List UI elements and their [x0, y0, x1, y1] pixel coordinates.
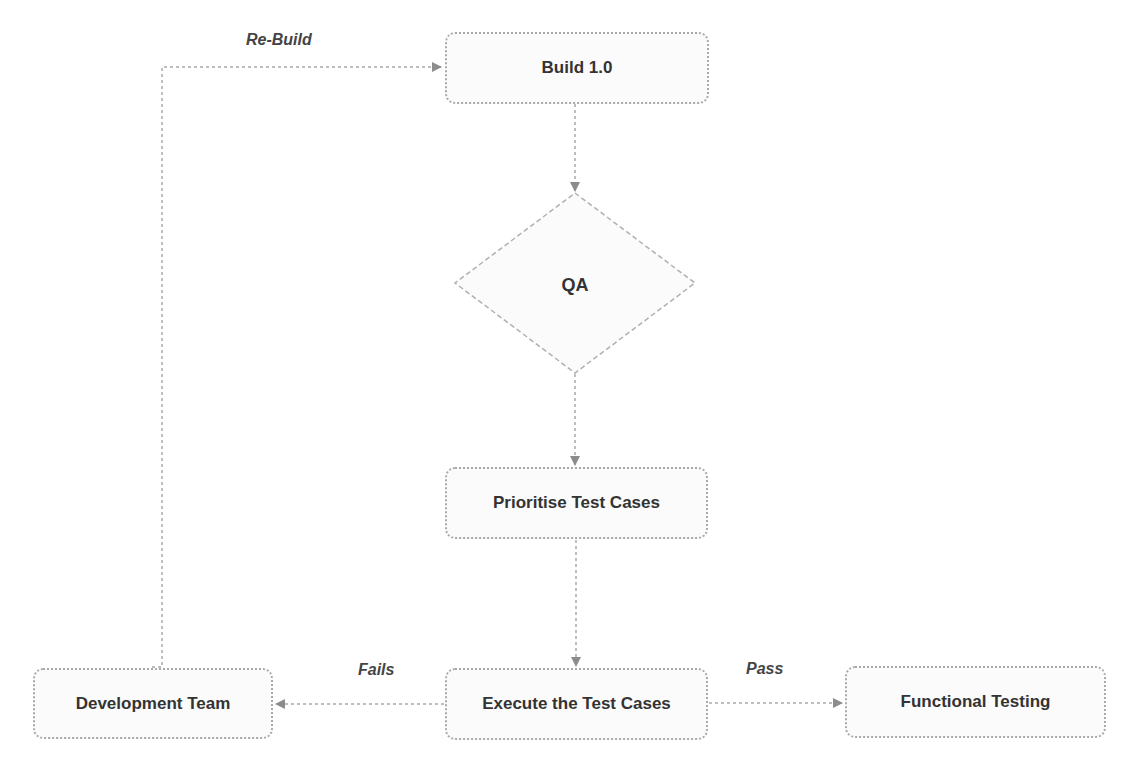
connector-layer	[0, 0, 1134, 776]
dev-team-node[interactable]: Development Team	[33, 668, 273, 739]
execute-node[interactable]: Execute the Test Cases	[445, 668, 708, 740]
build-node[interactable]: Build 1.0	[445, 32, 709, 104]
rebuild-edge-label: Re-Build	[246, 31, 312, 49]
prioritise-node[interactable]: Prioritise Test Cases	[445, 467, 708, 539]
fails-edge-label: Fails	[358, 661, 394, 679]
functional-testing-node-label: Functional Testing	[901, 692, 1051, 712]
execute-node-label: Execute the Test Cases	[482, 694, 671, 714]
functional-testing-node[interactable]: Functional Testing	[845, 666, 1106, 738]
prioritise-node-label: Prioritise Test Cases	[493, 493, 660, 513]
build-node-label: Build 1.0	[542, 58, 613, 78]
dev-team-node-label: Development Team	[76, 694, 231, 714]
pass-edge-label: Pass	[746, 660, 783, 678]
edge-rebuild	[152, 67, 441, 667]
qa-node-label: QA	[562, 275, 589, 296]
